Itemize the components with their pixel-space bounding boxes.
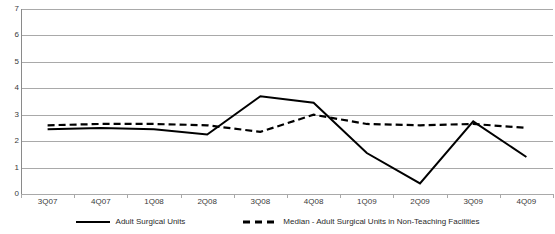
y-axis-tick-label: 4 [3, 84, 19, 92]
series-line-solid [48, 96, 527, 183]
y-axis-tick-label: 1 [3, 164, 19, 172]
x-axis-tick-label: 1Q09 [357, 197, 377, 207]
y-axis-tick-label: 0 [3, 190, 19, 198]
y-axis-tick-label: 5 [3, 58, 19, 66]
legend-swatch-dashed [243, 217, 277, 227]
legend-swatch-solid [76, 217, 110, 227]
x-axis-tick-label: 4Q09 [517, 197, 537, 207]
y-axis-line [21, 9, 22, 195]
legend-label: Adult Surgical Units [116, 218, 186, 226]
y-axis-tick-label: 7 [3, 5, 19, 13]
y-axis-tick-label: 6 [3, 31, 19, 39]
plot-area [21, 9, 553, 194]
x-axis-tick-label: 4Q08 [304, 197, 324, 207]
x-axis-tick-label: 2Q08 [197, 197, 217, 207]
legend-item-2[interactable]: Median - Adult Surgical Units in Non-Tea… [243, 217, 479, 227]
chart-legend: Adult Surgical UnitsMedian - Adult Surgi… [0, 214, 555, 230]
x-axis-tick-label: 4Q07 [91, 197, 111, 207]
legend-label: Median - Adult Surgical Units in Non-Tea… [283, 218, 479, 226]
series-layer [21, 9, 553, 194]
x-axis-tick-label: 2Q09 [410, 197, 430, 207]
x-axis-tick-label: 3Q09 [463, 197, 483, 207]
y-axis-tick-label: 3 [3, 111, 19, 119]
x-axis-tick [553, 194, 554, 198]
x-axis-labels: 3Q074Q071Q082Q083Q084Q081Q092Q093Q094Q09 [21, 197, 553, 211]
x-axis-tick-label: 3Q07 [38, 197, 58, 207]
y-axis-labels: 01234567 [0, 0, 19, 234]
legend-item-1[interactable]: Adult Surgical Units [76, 217, 186, 227]
x-axis-tick-label: 1Q08 [144, 197, 164, 207]
y-axis-tick-label: 2 [3, 137, 19, 145]
line-chart: 01234567 3Q074Q071Q082Q083Q084Q081Q092Q0… [0, 0, 555, 234]
x-axis-tick-label: 3Q08 [251, 197, 271, 207]
